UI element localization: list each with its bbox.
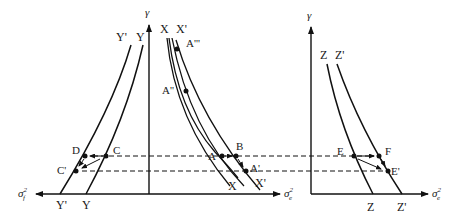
- sigma-f-exp: 2: [23, 186, 27, 194]
- label-x-bottom: X: [228, 180, 237, 192]
- label-y-top: Y: [136, 31, 145, 43]
- label-x-top: X: [160, 23, 169, 35]
- curve-y: [86, 45, 143, 194]
- label-a-double-prime: A'': [162, 85, 174, 96]
- sigma-e2-exp: 2: [437, 186, 441, 194]
- point-a3: [175, 47, 180, 52]
- sigma-e-exp: 2: [289, 186, 293, 194]
- point-e: [352, 154, 357, 159]
- point-b: [234, 154, 239, 159]
- sigma-e-sub: e: [289, 194, 292, 202]
- gamma-label-right: γ: [307, 10, 311, 21]
- point-c-prime: [74, 169, 79, 174]
- label-c: C: [113, 145, 120, 156]
- sigma-e-label-left: σ2e: [284, 187, 292, 202]
- arrow-c-to-cprime: [82, 159, 100, 168]
- label-f: F: [385, 146, 391, 157]
- point-d: [83, 154, 88, 159]
- sigma-e-label-right: σ2e: [432, 187, 440, 202]
- label-y-prime-bottom: Y': [56, 199, 67, 211]
- label-e: E: [337, 146, 344, 157]
- arrow-e-to-eprime: [358, 159, 381, 169]
- right-axes: [311, 27, 428, 194]
- curve-x-outer: [176, 40, 260, 190]
- label-a-prime: A': [250, 163, 260, 174]
- point-a2: [184, 89, 189, 94]
- x-curves: [167, 38, 260, 190]
- gamma-label-left: γ: [145, 7, 149, 18]
- point-a: [220, 154, 225, 159]
- label-z-prime-top: Z': [335, 49, 345, 61]
- point-a-prime: [244, 169, 249, 174]
- label-e-prime: E': [391, 166, 400, 177]
- dashed-guides: [82, 156, 384, 171]
- label-c-prime: C': [57, 165, 66, 176]
- label-a: A: [208, 151, 216, 162]
- label-y-bottom: Y: [82, 199, 91, 211]
- label-x-prime-top: X': [176, 23, 187, 35]
- label-z-prime-bottom: Z': [397, 201, 407, 213]
- label-b: B: [236, 141, 243, 152]
- point-c: [104, 154, 109, 159]
- label-a-triple-prime: A''': [186, 38, 200, 49]
- sigma-f-label: σ2f: [18, 187, 25, 202]
- point-f: [377, 154, 382, 159]
- sigma-e2-sub: e: [437, 194, 440, 202]
- arrow-f-to-eprime: [381, 159, 385, 166]
- y-curves: [60, 45, 143, 194]
- label-d: D: [72, 145, 80, 156]
- label-x-prime-bottom: X': [255, 177, 266, 189]
- label-z-bottom: Z: [367, 201, 374, 213]
- label-y-prime-top: Y': [116, 31, 127, 43]
- label-z-top: Z: [320, 49, 327, 61]
- point-e-prime: [386, 169, 391, 174]
- arrows: [79, 156, 385, 169]
- sigma-f-sub: f: [23, 194, 25, 202]
- curve-z: [327, 64, 373, 194]
